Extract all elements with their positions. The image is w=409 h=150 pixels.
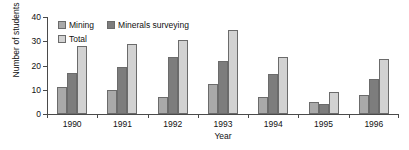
- x-tick-1990: [47, 114, 48, 118]
- y-axis-title: Number of students: [11, 0, 25, 90]
- bar-1994-mining: [258, 97, 268, 114]
- bar-1993-total: [228, 30, 238, 114]
- bar-1991-total: [127, 44, 137, 114]
- chart-legend: Mining Minerals surveying Total: [58, 19, 198, 47]
- x-tick-label-1996: 1996: [364, 120, 383, 129]
- legend-swatch-mining-icon: [58, 21, 66, 29]
- y-tick-40: [43, 17, 47, 18]
- legend-item-minerals-surveying: Minerals surveying: [107, 21, 189, 30]
- bar-1996-total: [379, 59, 389, 114]
- bar-1993-minerals-surveying: [218, 61, 228, 114]
- legend-label-total: Total: [69, 35, 87, 44]
- bar-1995-minerals-surveying: [319, 104, 329, 114]
- x-tick-end: [398, 114, 399, 118]
- y-tick-10: [43, 90, 47, 91]
- y-tick-20: [43, 66, 47, 67]
- bar-1992-total: [178, 40, 188, 114]
- bar-1992-minerals-surveying: [168, 57, 178, 114]
- bar-1996-mining: [359, 95, 369, 114]
- y-tick-label-20: 20: [32, 61, 41, 70]
- bar-1990-minerals-surveying: [67, 73, 77, 114]
- x-tick-1991: [97, 114, 98, 118]
- legend-row-1: Mining Minerals surveying: [58, 19, 198, 31]
- y-tick-label-30: 30: [32, 37, 41, 46]
- y-tick-30: [43, 41, 47, 42]
- bar-1991-mining: [107, 90, 117, 114]
- x-axis-title: Year: [47, 131, 399, 141]
- legend-item-total: Total: [58, 35, 87, 44]
- legend-swatch-total-icon: [58, 35, 66, 43]
- x-tick-1995: [298, 114, 299, 118]
- x-tick-1996: [349, 114, 350, 118]
- x-tick-1993: [198, 114, 199, 118]
- bar-1995-total: [329, 92, 339, 114]
- x-tick-label-1990: 1990: [63, 120, 82, 129]
- legend-row-2: Total: [58, 33, 198, 45]
- x-tick-label-1991: 1991: [113, 120, 132, 129]
- x-tick-1994: [248, 114, 249, 118]
- bar-1994-total: [278, 57, 288, 114]
- x-tick-1992: [148, 114, 149, 118]
- bar-1996-minerals-surveying: [369, 79, 379, 114]
- y-tick-label-0: 0: [36, 110, 41, 119]
- x-tick-label-1993: 1993: [214, 120, 233, 129]
- bar-chart: Number of students 010203040 19901991199…: [0, 0, 409, 150]
- bar-1993-mining: [208, 84, 218, 114]
- x-tick-label-1995: 1995: [314, 120, 333, 129]
- legend-label-mining: Mining: [69, 21, 94, 30]
- y-axis-line: [47, 17, 48, 115]
- bar-1991-minerals-surveying: [117, 67, 127, 114]
- x-tick-label-1994: 1994: [264, 120, 283, 129]
- legend-swatch-minerals-surveying-icon: [107, 21, 115, 29]
- bar-1992-mining: [158, 97, 168, 114]
- legend-label-minerals-surveying: Minerals surveying: [118, 21, 189, 30]
- bar-1995-mining: [309, 102, 319, 114]
- bar-1990-total: [77, 46, 87, 114]
- x-tick-label-1992: 1992: [163, 120, 182, 129]
- y-tick-label-10: 10: [32, 86, 41, 95]
- y-tick-label-40: 40: [32, 13, 41, 22]
- bar-1994-minerals-surveying: [268, 74, 278, 114]
- legend-item-mining: Mining: [58, 21, 94, 30]
- x-axis-line: [47, 114, 399, 115]
- bar-1990-mining: [57, 87, 67, 114]
